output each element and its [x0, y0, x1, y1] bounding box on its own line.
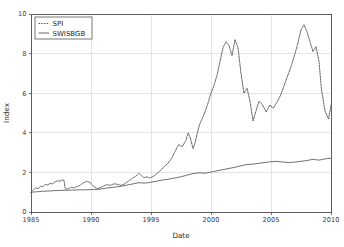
- chart-legend[interactable]: SPISWISBGB: [35, 17, 92, 39]
- x-tick-label: 2005: [263, 216, 280, 224]
- y-tick-label: 8: [22, 50, 26, 58]
- x-axis-title: Date: [172, 231, 190, 240]
- y-tick-label: 6: [22, 90, 26, 98]
- series-spi: [31, 25, 331, 192]
- legend-label-spi: SPI: [53, 20, 64, 28]
- series-swisbgb: [31, 158, 331, 192]
- y-axis-ticks: 0246810: [18, 10, 31, 216]
- y-tick-label: 4: [22, 129, 26, 137]
- x-tick-label: 2010: [323, 216, 340, 224]
- data-series: [31, 25, 331, 192]
- x-tick-label: 1995: [143, 216, 160, 224]
- x-tick-label: 1985: [23, 216, 40, 224]
- chart-figure: 198519901995200020052010 0246810 Date In…: [0, 0, 344, 247]
- gridlines: [31, 14, 331, 212]
- x-axis-ticks: 198519901995200020052010: [23, 212, 340, 224]
- y-tick-label: 10: [18, 10, 26, 18]
- y-axis-title: Index: [2, 102, 11, 123]
- line-chart: 198519901995200020052010 0246810 Date In…: [0, 0, 344, 247]
- y-tick-label: 2: [22, 169, 26, 177]
- legend-label-swisbgb: SWISBGB: [53, 30, 86, 38]
- y-tick-label: 0: [22, 208, 26, 216]
- axes-spines: [31, 14, 331, 212]
- x-tick-label: 1990: [83, 216, 100, 224]
- x-tick-label: 2000: [203, 216, 220, 224]
